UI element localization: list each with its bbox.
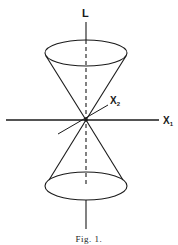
light-cone-diagram: L X1 X2 Fig. 1. [0,0,178,245]
upper-cone [45,40,127,120]
x2-axis-label: X2 [110,95,121,107]
apex-point [84,118,88,122]
x1-axis-label: X1 [163,115,174,127]
figure-caption: Fig. 1. [76,234,103,244]
l-axis-label: L [82,7,89,19]
